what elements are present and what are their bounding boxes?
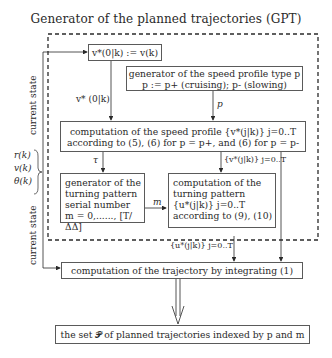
speed-profile-computation-box: computation of the speed profile {v*(j|k… [60,121,306,152]
output-set-box: the set 𝓟 of planned trajectories indexe… [55,325,310,344]
input-theta: θ(k) [14,176,32,186]
init-speed-box: v*(0|k) := v(k) [88,44,162,61]
input-r: r(k) [14,150,31,160]
p-label: p [217,99,223,109]
m-label: m [153,197,162,207]
current-state-top-label: current state [28,75,38,135]
turning-set-label: {u*(j|k)} j=0..T [170,241,233,251]
v0k-label: v* (0|k) [76,94,110,104]
speed-profile-type-box: generator of the speed profile type p p … [126,66,303,91]
output-set-text: the set 𝓟 of planned trajectories indexe… [61,329,305,340]
turning-serial-line4: m = 0,......, [T/ΔΔ] [65,210,144,232]
turning-comp-line1: computation of the [173,177,275,188]
speed-set-label: {v*(j|k)} j=0..T [224,155,286,165]
turning-serial-box: generator of the turning pattern serial … [60,173,145,223]
trajectory-text: computation of the trajectory by integra… [71,265,293,276]
turning-serial-line2: turning pattern [65,188,144,199]
turning-comp-line4: according to (9), (10) [173,210,275,221]
speed-comp-line2: according to (5), (6) for p = p+, and (6… [61,137,305,148]
init-speed-text: v*(0|k) := v(k) [92,47,158,58]
turning-serial-line3: serial number [65,199,144,210]
tau-label: τ [93,155,98,165]
current-state-bottom-label: current state [28,205,38,265]
input-v: v(k) [14,163,32,173]
speed-type-line1: generator of the speed profile type p [127,68,302,79]
speed-comp-line1: computation of the speed profile {v*(j|k… [61,126,305,137]
turning-comp-line2: turning pattern [173,188,275,199]
speed-type-line2: p := p+ (cruising); p- (slowing) [127,79,302,90]
connector-lines [0,0,332,358]
turning-computation-box: computation of the turning pattern {u*(j… [168,173,276,228]
turning-serial-line1: generator of the [65,177,144,188]
turning-comp-line3: {u*(j|k)} j=0..T [173,199,275,210]
trajectory-box: computation of the trajectory by integra… [61,262,303,279]
